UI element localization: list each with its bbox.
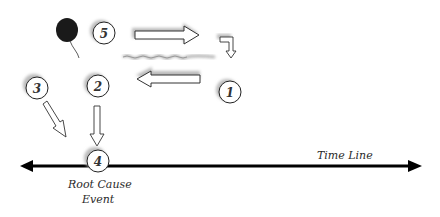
node-1: 1 (216, 79, 241, 103)
timeline-right-arrowhead (408, 160, 422, 172)
timeline-label: Time Line (317, 149, 373, 162)
bent-down-arrow-icon (217, 34, 236, 58)
left-arrow-icon (136, 67, 200, 87)
svg-text:2: 2 (93, 80, 102, 94)
node-2: 2 (84, 73, 109, 97)
svg-text:3: 3 (33, 82, 41, 96)
wavy-line (123, 56, 215, 59)
root-cause-label-line2: Event (82, 193, 114, 206)
node-3: 3 (23, 74, 48, 99)
svg-text:4: 4 (94, 155, 102, 169)
node-4: 4 (84, 147, 109, 172)
diagram-canvas: 5 1 3 2 (0, 0, 440, 217)
svg-text:1: 1 (226, 86, 234, 100)
balloon-icon (56, 18, 79, 58)
right-arrow-icon (132, 23, 199, 44)
down-arrow-icon (90, 106, 104, 146)
timeline-left-arrowhead (20, 160, 33, 172)
svg-text:5: 5 (100, 27, 108, 41)
node-5: 5 (90, 20, 115, 44)
root-cause-label-line1: Root Cause (68, 178, 132, 191)
diagonal-arrow-icon (43, 101, 66, 137)
